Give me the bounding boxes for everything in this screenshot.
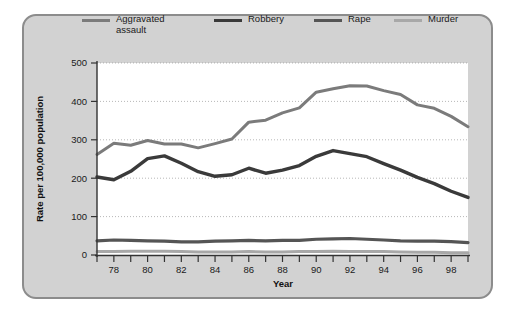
legend-label-robbery: Robbery xyxy=(248,14,284,25)
legend-swatch-murder xyxy=(394,19,422,22)
legend-swatch-rape xyxy=(314,19,342,22)
legend-swatch-robbery xyxy=(214,19,242,22)
legend-item-aggravated-assault[interactable]: Aggravated assault xyxy=(82,14,165,35)
legend-label-murder: Murder xyxy=(428,14,458,25)
legend-label-aggravated-assault: Aggravated assault xyxy=(116,14,165,35)
legend-item-murder[interactable]: Murder xyxy=(394,14,458,25)
legend-item-rape[interactable]: Rape xyxy=(314,14,371,25)
legend-label-rape: Rape xyxy=(348,14,371,25)
legend-swatch-aggravated-assault xyxy=(82,19,110,22)
background-bleed-artifact xyxy=(28,306,488,316)
legend-item-robbery[interactable]: Robbery xyxy=(214,14,284,25)
figure-panel xyxy=(22,14,493,299)
chart-legend: Aggravated assault Robbery Rape Murder xyxy=(82,14,457,46)
